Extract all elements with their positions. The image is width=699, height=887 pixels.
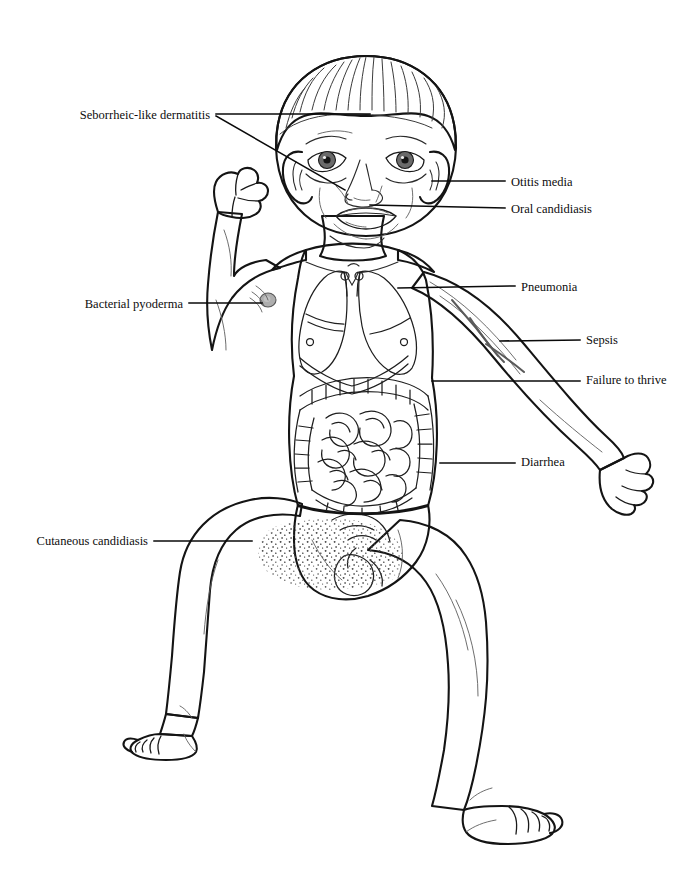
right-eye bbox=[386, 152, 426, 183]
label-pneumonia: Pneumonia bbox=[521, 280, 578, 294]
bacterial-pyoderma-lesion bbox=[250, 286, 276, 312]
label-oral-candidiasis: Oral candidiasis bbox=[511, 202, 592, 216]
right-ear bbox=[420, 152, 449, 204]
medical-illustration: Seborrheic-like dermatitis Otitis media … bbox=[0, 0, 699, 887]
label-sepsis: Sepsis bbox=[586, 333, 618, 347]
left-ear bbox=[283, 152, 312, 204]
label-bacterial-pyoderma: Bacterial pyoderma bbox=[85, 297, 184, 311]
label-diarrhea: Diarrhea bbox=[521, 455, 565, 469]
left-eye bbox=[306, 152, 346, 183]
head bbox=[276, 56, 456, 239]
label-failure-to-thrive: Failure to thrive bbox=[586, 373, 667, 387]
illustration-page: Seborrheic-like dermatitis Otitis media … bbox=[0, 0, 699, 887]
label-cutaneous-candidiasis: Cutaneous candidiasis bbox=[37, 534, 149, 548]
candidiasis-rash-stipple bbox=[258, 518, 402, 590]
lungs bbox=[299, 271, 417, 394]
right-arm-extended bbox=[412, 272, 653, 515]
abdomen-organs bbox=[294, 378, 433, 517]
label-seborrheic-like-dermatitis: Seborrheic-like dermatitis bbox=[80, 108, 210, 122]
hair-strands bbox=[286, 57, 444, 128]
left-arm-raised bbox=[207, 168, 280, 350]
mouth bbox=[336, 208, 396, 229]
label-otitis-media: Otitis media bbox=[511, 175, 573, 189]
